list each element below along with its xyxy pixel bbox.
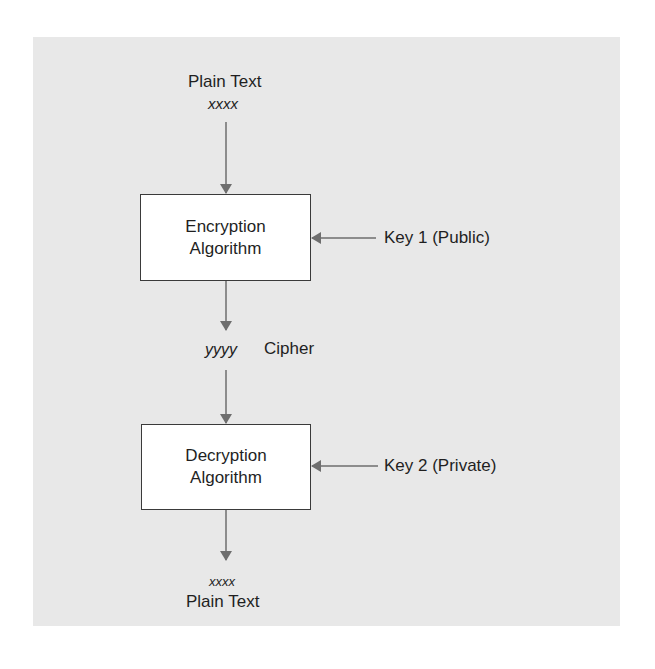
- connector-arrows: [0, 0, 655, 669]
- decryption-algorithm-box: Decryption Algorithm: [141, 424, 311, 510]
- key2-private-label: Key 2 (Private): [384, 456, 496, 476]
- bottom-plaintext-value: xxxx: [209, 572, 235, 592]
- top-plaintext-value: xxxx: [208, 94, 238, 114]
- decryption-box-line1: Decryption: [185, 445, 266, 467]
- cipher-value: yyyy: [205, 340, 237, 360]
- key1-public-label: Key 1 (Public): [384, 228, 490, 248]
- cipher-label: Cipher: [264, 339, 314, 359]
- encryption-algorithm-box: Encryption Algorithm: [140, 194, 311, 281]
- top-plaintext-label: Plain Text: [188, 72, 261, 92]
- decryption-box-line2: Algorithm: [190, 467, 262, 489]
- encryption-box-line2: Algorithm: [190, 238, 262, 260]
- encryption-box-line1: Encryption: [185, 216, 265, 238]
- bottom-plaintext-label: Plain Text: [186, 592, 259, 612]
